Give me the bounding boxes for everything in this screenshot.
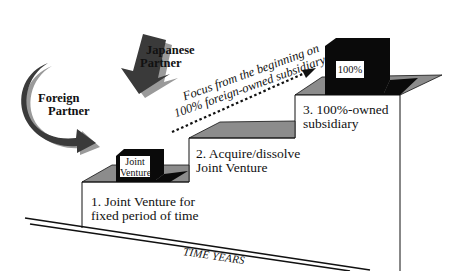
cube-label-line2: Venture bbox=[120, 167, 150, 178]
staircase-diagram bbox=[0, 0, 468, 271]
cube-label-text: 100% bbox=[338, 64, 363, 75]
step-1-label: 1. Joint Venture for fixed period of tim… bbox=[91, 195, 199, 223]
step-3-line2: subsidiary bbox=[303, 117, 388, 131]
step-3-label: 3. 100%-owned subsidiary bbox=[303, 103, 388, 131]
japanese-partner-line2: Partner bbox=[140, 57, 195, 70]
cube-label-line1: Joint bbox=[120, 156, 150, 167]
step-2-label: 2. Acquire/dissolve Joint Venture bbox=[196, 147, 300, 175]
step-1-line1: 1. Joint Venture for bbox=[91, 195, 199, 209]
foreign-partner-line2: Partner bbox=[38, 105, 90, 118]
step-2-line2: Joint Venture bbox=[196, 161, 300, 175]
step-1-line2: fixed period of time bbox=[91, 209, 199, 223]
foreign-partner-label: Foreign Partner bbox=[38, 92, 90, 118]
step-2-line1: 2. Acquire/dissolve bbox=[196, 147, 300, 161]
hundred-percent-cube-label: 100% bbox=[336, 61, 364, 78]
step-3-line1: 3. 100%-owned bbox=[303, 103, 388, 117]
japanese-partner-label: Japanese Partner bbox=[140, 44, 195, 70]
joint-venture-cube-label: Joint Venture bbox=[120, 156, 150, 177]
